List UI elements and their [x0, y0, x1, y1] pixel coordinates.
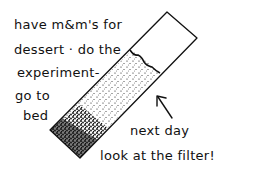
- note-line-3: experiment-: [17, 66, 100, 79]
- callout-line-1: next day: [130, 124, 189, 137]
- note-line-2: dessert · do the: [14, 43, 121, 56]
- note-line-5: bed: [23, 109, 48, 122]
- callout-line-2: look at the filter!: [100, 149, 215, 162]
- illustration-canvas: have m&m's for dessert · do the experime…: [0, 0, 266, 175]
- note-line-1: have m&m's for: [14, 18, 122, 31]
- note-line-4: go to: [15, 89, 50, 102]
- arrow-icon: [157, 96, 172, 118]
